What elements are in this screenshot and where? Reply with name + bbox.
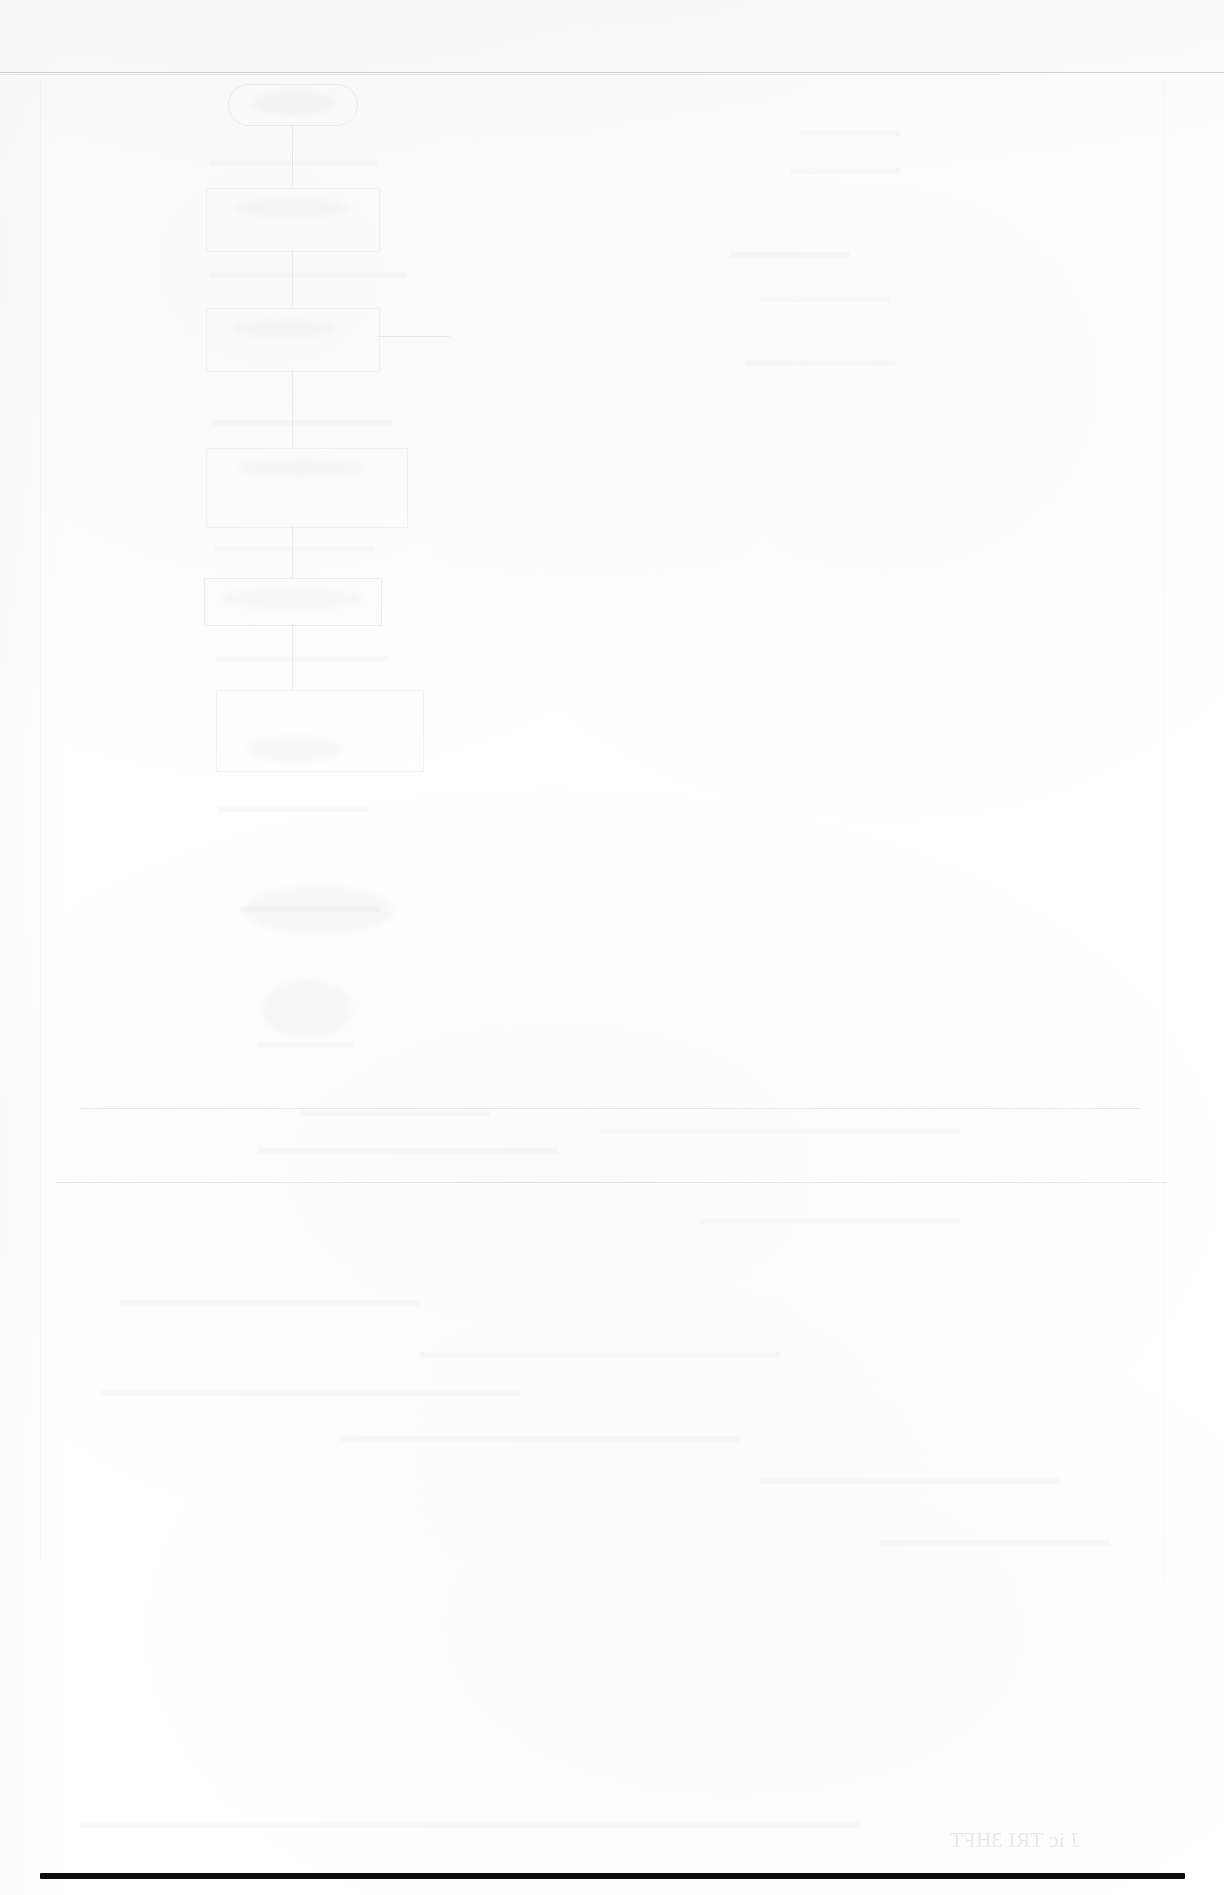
top-horizontal-rule xyxy=(0,72,1224,73)
bleed-through-text: J ic TRI 3HFT xyxy=(950,1828,1079,1853)
diagram-lower-smudge-2 xyxy=(262,980,352,1038)
ghost-text-line xyxy=(760,1478,1060,1484)
ghost-text-line xyxy=(240,906,380,912)
flowchart-node-5-smudge xyxy=(222,588,362,610)
paper-texture-overlay xyxy=(0,0,1224,1895)
ghost-text-line xyxy=(258,1148,558,1154)
flowchart-node-6-smudge xyxy=(246,736,342,762)
ghost-text-line xyxy=(100,1390,520,1396)
ghost-text-line xyxy=(700,1218,960,1224)
flowchart-connector-3 xyxy=(292,370,293,448)
ghost-text-line xyxy=(258,1042,354,1048)
flowchart-connector-4 xyxy=(292,526,293,578)
ghost-text-line xyxy=(600,1128,960,1134)
ghost-text-line xyxy=(730,252,850,258)
ghost-text-line xyxy=(880,1540,1110,1546)
margin-line-left xyxy=(40,80,41,1560)
flowchart-node-terminator-smudge xyxy=(252,90,336,116)
flowchart-connector-1 xyxy=(292,124,293,188)
margin-line-right xyxy=(1163,80,1164,1580)
ghost-text-line xyxy=(210,272,406,278)
ghost-text-line xyxy=(210,160,378,166)
flowchart-node-3 xyxy=(206,308,380,372)
ghost-text-line xyxy=(120,1300,420,1306)
ghost-text-line xyxy=(760,296,890,302)
bottom-horizontal-rule xyxy=(40,1873,1185,1879)
ghost-text-line xyxy=(790,168,900,174)
flowchart-node-2-smudge xyxy=(236,198,348,218)
ghost-text-line xyxy=(300,1110,490,1116)
flowchart-node-3-smudge xyxy=(232,320,336,338)
ghost-text-line xyxy=(214,546,374,552)
ghost-text-line xyxy=(800,130,900,136)
top-horizontal-rule-echo xyxy=(0,74,1000,75)
flowchart-connector-2 xyxy=(292,250,293,308)
ghost-text-line xyxy=(340,1436,740,1442)
mid-horizontal-rule-2 xyxy=(56,1182,1166,1183)
ghost-text-line xyxy=(212,420,392,426)
ghost-text-line xyxy=(80,1822,860,1828)
flowchart-branch-connector xyxy=(378,336,450,337)
ghost-text-line xyxy=(420,1352,780,1358)
flowchart-node-4-smudge xyxy=(238,458,364,478)
mid-horizontal-rule xyxy=(80,1108,1140,1109)
ghost-text-line xyxy=(216,656,388,662)
scanned-page: J ic TRI 3HFT xyxy=(0,0,1224,1895)
ghost-text-line xyxy=(746,360,896,366)
ghost-text-line xyxy=(218,806,368,812)
